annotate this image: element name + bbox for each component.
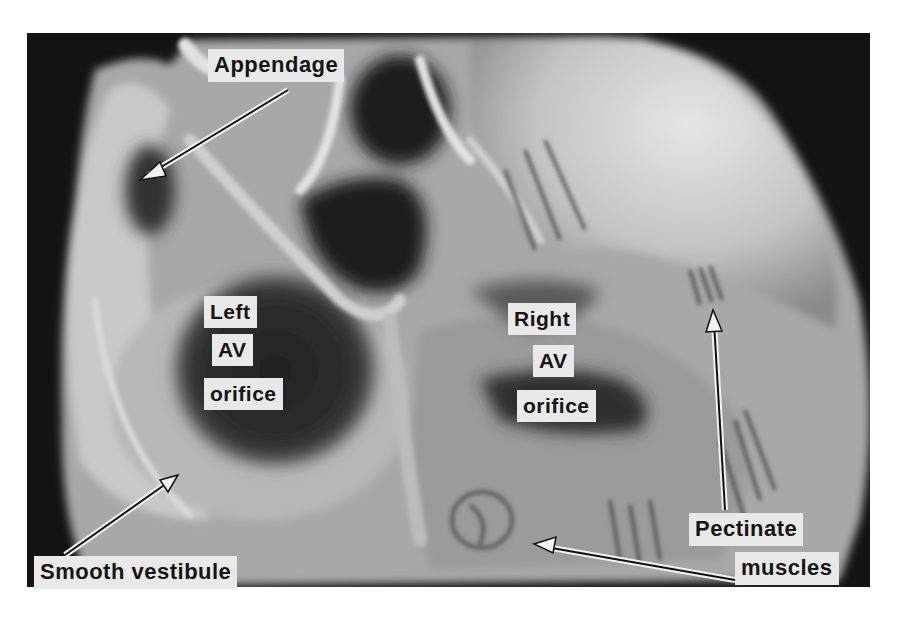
photo-frame — [27, 33, 870, 587]
label-left-av-line1: Left — [204, 296, 257, 328]
label-right-av-line2: AV — [533, 345, 574, 377]
label-right-av-line3: orifice — [517, 390, 596, 422]
label-left-av-line3: orifice — [204, 378, 283, 410]
label-pectinate-line2: muscles — [735, 552, 839, 585]
label-smooth-vestibule: Smooth vestibule — [34, 556, 237, 589]
label-right-av-line1: Right — [508, 303, 576, 335]
label-appendage: Appendage — [208, 49, 344, 82]
label-pectinate-line1: Pectinate — [689, 513, 803, 546]
label-left-av-line2: AV — [212, 334, 253, 366]
heart-specimen-photo — [27, 33, 870, 587]
